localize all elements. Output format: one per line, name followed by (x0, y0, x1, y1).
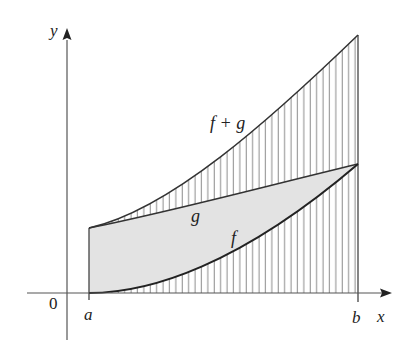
area-sum-diagram: y x 0 a b f + g g f (0, 0, 406, 350)
y-axis-arrow-icon (63, 28, 72, 40)
curve-label-g: g (191, 206, 200, 226)
curve-label-fplusg: f + g (210, 113, 245, 133)
tick-label-b: b (352, 308, 361, 327)
origin-label: 0 (49, 294, 58, 313)
tick-label-a: a (84, 305, 93, 324)
x-axis-label: x (376, 307, 385, 326)
y-axis-label: y (48, 21, 58, 40)
